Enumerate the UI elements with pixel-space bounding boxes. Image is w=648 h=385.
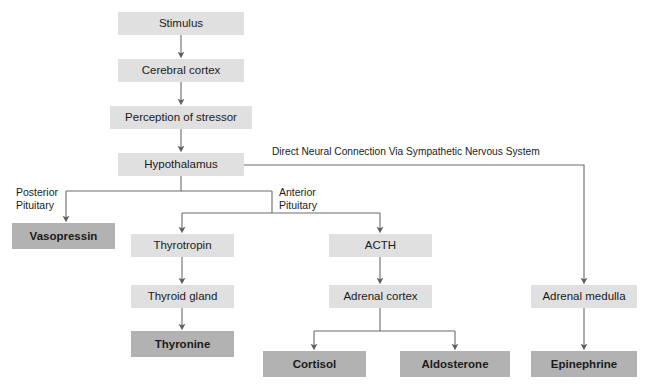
node-stimulus: Stimulus: [118, 12, 244, 35]
node-perception: Perception of stressor: [110, 106, 252, 129]
edge-hypothalamus-to-adrenal-medulla: [244, 165, 584, 281]
node-acth: ACTH: [329, 234, 432, 257]
flowchart-diagram: StimulusCerebral cortexPerception of str…: [0, 0, 648, 385]
node-vasopressin: Vasopressin: [12, 223, 115, 249]
edge-label-posterior-pituitary: Posterior Pituitary: [16, 186, 58, 212]
edge-label-anterior-pituitary: Anterior Pituitary: [279, 186, 317, 212]
node-thyroid-gland: Thyroid gland: [131, 285, 234, 308]
connector-lines: [0, 0, 648, 385]
node-epinephrine: Epinephrine: [531, 351, 637, 377]
node-cortisol: Cortisol: [263, 351, 366, 377]
node-cerebral-cortex: Cerebral cortex: [118, 59, 244, 82]
node-aldosterone: Aldosterone: [400, 351, 510, 377]
node-thyronine: Thyronine: [131, 331, 234, 357]
node-adrenal-medulla: Adrenal medulla: [531, 285, 637, 308]
edge-label-direct-neural: Direct Neural Connection Via Sympathetic…: [272, 146, 540, 158]
node-hypothalamus: Hypothalamus: [118, 153, 244, 176]
node-adrenal-cortex: Adrenal cortex: [329, 285, 432, 308]
node-thyrotropin: Thyrotropin: [131, 234, 234, 257]
